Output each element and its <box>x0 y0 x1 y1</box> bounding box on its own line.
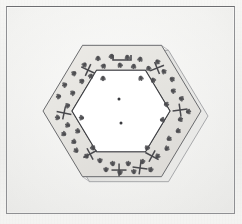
center-dot <box>118 98 121 101</box>
center-dot <box>120 122 123 125</box>
figure-root <box>0 0 242 224</box>
hexagon-illustration <box>0 0 242 224</box>
